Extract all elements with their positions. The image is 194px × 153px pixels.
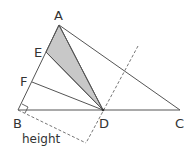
label-c: C [175, 116, 184, 131]
shaded-triangle-aed [46, 25, 103, 110]
label-f: F [20, 74, 27, 89]
label-b: B [13, 116, 22, 131]
label-d: D [99, 116, 109, 131]
label-e: E [34, 45, 42, 60]
point-d-dot [102, 109, 105, 112]
triangle-diagram: A E F B D C height [0, 0, 194, 153]
height-label: height [22, 132, 61, 146]
side-ab [18, 25, 59, 110]
right-angle-marker [22, 104, 28, 113]
label-a: A [54, 8, 63, 23]
